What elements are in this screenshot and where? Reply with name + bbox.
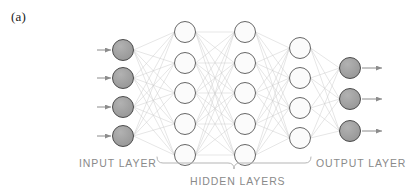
connection-line	[256, 48, 290, 63]
output-layer-caption: OUTPUT LAYER	[316, 157, 406, 169]
node-hidden-2-5	[235, 145, 256, 166]
connection-line	[311, 48, 340, 68]
input-arrows	[97, 50, 111, 136]
hidden-layers-caption: HIDDEN LAYERS	[190, 175, 286, 187]
connection-line	[256, 93, 290, 108]
connection-line	[256, 138, 290, 155]
node-hidden-1-4	[175, 114, 196, 135]
node-hidden-1-1	[175, 22, 196, 43]
node-output-1	[340, 58, 361, 79]
node-output-3	[340, 121, 361, 142]
node-hidden-2-3	[235, 83, 256, 104]
connection-line	[134, 32, 175, 78]
node-hidden-3-1	[290, 38, 311, 59]
node-input-3	[113, 97, 134, 118]
connection-line	[134, 32, 175, 136]
output-arrows	[362, 68, 382, 131]
connection-line	[311, 48, 340, 99]
connection-line	[134, 78, 175, 155]
node-hidden-2-2	[235, 53, 256, 74]
connection-line	[134, 78, 175, 93]
connection-line	[311, 68, 340, 78]
node-hidden-1-2	[175, 53, 196, 74]
node-input-2	[113, 68, 134, 89]
connection-line	[134, 50, 175, 155]
connection-line	[134, 107, 175, 124]
connection-line	[134, 124, 175, 136]
connection-line	[256, 78, 290, 155]
node-input-1	[113, 40, 134, 61]
node-hidden-2-4	[235, 114, 256, 135]
node-hidden-1-3	[175, 83, 196, 104]
node-output-2	[340, 89, 361, 110]
figure-root: (a) INPUT LAYER HIDDEN LAYERS OUTPUT LAY…	[0, 0, 414, 196]
node-hidden-1-5	[175, 145, 196, 166]
node-hidden-3-4	[290, 128, 311, 149]
connection-line	[256, 32, 290, 48]
connection-line	[311, 78, 340, 99]
node-input-4	[113, 126, 134, 147]
input-layer-caption: INPUT LAYER	[79, 157, 157, 169]
node-hidden-2-1	[235, 22, 256, 43]
node-hidden-3-2	[290, 68, 311, 89]
node-hidden-3-3	[290, 98, 311, 119]
